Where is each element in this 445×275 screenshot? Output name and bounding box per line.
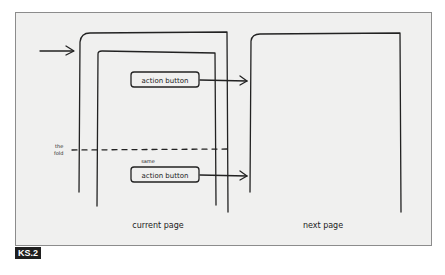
action-button-bottom-label: action button xyxy=(142,172,189,180)
next-page-label: next page xyxy=(303,221,343,230)
action-button-top-label: action button xyxy=(142,77,189,85)
same-caption: same xyxy=(141,158,155,164)
fold-label-line1: the xyxy=(55,143,63,149)
figure-label: KS.2 xyxy=(15,247,41,259)
current-page-inner-frame xyxy=(97,51,216,206)
arrow-right-icon xyxy=(200,171,247,180)
entry-arrow-icon xyxy=(40,46,74,55)
current-page-label: current page xyxy=(132,221,183,230)
fold-line xyxy=(72,149,228,150)
next-page-frame xyxy=(250,33,401,212)
wireframe-sketch: the fold action button same action butto… xyxy=(0,0,445,275)
arrow-right-icon xyxy=(200,76,247,85)
current-page-outer-frame xyxy=(79,32,228,212)
fold-label-line2: fold xyxy=(54,150,63,156)
